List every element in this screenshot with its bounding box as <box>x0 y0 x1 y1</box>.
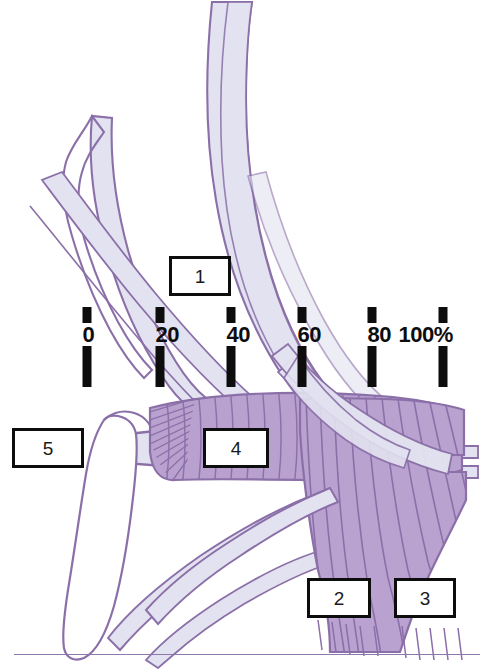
scale-tick-20: 20 <box>156 307 165 387</box>
tick-label: 60 <box>298 323 307 346</box>
tick-bar-bottom <box>368 346 377 387</box>
scale-tick-0: 0 <box>83 307 92 387</box>
tick-bar-top <box>368 307 377 323</box>
callout-label: 4 <box>231 439 242 458</box>
tick-bar-bottom <box>227 346 236 387</box>
callout-label: 3 <box>420 589 431 608</box>
tick-bar-bottom <box>83 346 92 387</box>
callout-label: 5 <box>43 439 54 458</box>
tick-bar-top <box>298 307 307 323</box>
tick-bar-bottom <box>439 346 448 387</box>
tick-bar-bottom <box>156 346 165 387</box>
tick-bar-bottom <box>298 346 307 387</box>
scale-tick-100: 100% <box>439 307 448 387</box>
scale-tick-60: 60 <box>298 307 307 387</box>
callout-label: 1 <box>195 267 206 286</box>
tick-label: 100% <box>399 323 486 346</box>
tick-bar-top <box>439 307 448 323</box>
callout-box-5[interactable]: 5 <box>12 428 84 468</box>
tick-label: 20 <box>156 323 165 346</box>
tick-label: 40 <box>227 323 236 346</box>
callout-box-2[interactable]: 2 <box>307 578 371 618</box>
callout-label: 2 <box>334 589 345 608</box>
scale-tick-40: 40 <box>227 307 236 387</box>
tick-label: 80 <box>368 323 377 346</box>
tick-bar-top <box>156 307 165 323</box>
callout-box-3[interactable]: 3 <box>394 578 456 618</box>
tick-label: 0 <box>83 323 92 346</box>
callout-box-1[interactable]: 1 <box>169 256 231 296</box>
scale-tick-80: 80 <box>368 307 377 387</box>
anatomical-figure: 0 20 40 60 80 100% 1 <box>0 0 486 669</box>
tick-bar-top <box>83 307 92 323</box>
bottom-divider <box>14 654 480 655</box>
callout-box-4[interactable]: 4 <box>203 428 269 468</box>
tick-bar-top <box>227 307 236 323</box>
